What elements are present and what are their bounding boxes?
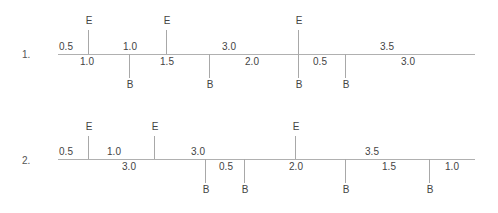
e-tick (88, 30, 89, 54)
b-tick (129, 54, 130, 78)
interval-above: 1.0 (123, 41, 137, 52)
b-marker: B (127, 79, 134, 90)
b-marker: B (207, 79, 214, 90)
interval-above: 1.0 (107, 146, 121, 157)
timeline-axis (58, 159, 475, 160)
b-tick (209, 54, 210, 78)
interval-above: 3.0 (222, 41, 236, 52)
b-marker: B (343, 79, 350, 90)
b-tick (244, 159, 245, 183)
interval-above: 3.5 (365, 146, 379, 157)
interval-above: 3.5 (380, 41, 394, 52)
interval-below: 0.5 (313, 56, 327, 67)
b-tick (345, 159, 346, 183)
row-label: 1. (22, 49, 30, 60)
e-marker: E (296, 15, 303, 26)
interval-below: 1.5 (160, 56, 174, 67)
b-tick (205, 159, 206, 183)
e-tick (298, 30, 299, 54)
timeline-axis (58, 54, 475, 55)
b-marker: B (427, 184, 434, 195)
e-marker: E (293, 121, 300, 132)
interval-above: 3.0 (191, 146, 205, 157)
b-marker: B (343, 184, 350, 195)
e-tick (88, 136, 89, 159)
interval-below: 1.0 (80, 56, 94, 67)
interval-below: 1.5 (382, 161, 396, 172)
b-marker: B (203, 184, 210, 195)
row-label: 2. (22, 155, 30, 166)
e-marker: E (164, 15, 171, 26)
e-marker: E (86, 121, 93, 132)
interval-above: 0.5 (59, 41, 73, 52)
b-marker: B (296, 79, 303, 90)
e-marker: E (152, 121, 159, 132)
e-tick (295, 136, 296, 159)
interval-above: 0.5 (59, 146, 73, 157)
b-tick (429, 159, 430, 183)
e-tick (166, 30, 167, 54)
interval-below: 1.0 (445, 161, 459, 172)
e-tick (154, 136, 155, 159)
interval-below: 3.0 (122, 161, 136, 172)
e-marker: E (86, 15, 93, 26)
interval-below: 2.0 (289, 161, 303, 172)
b-tick (298, 54, 299, 78)
interval-below: 2.0 (245, 56, 259, 67)
b-tick (345, 54, 346, 78)
interval-below: 3.0 (401, 56, 415, 67)
b-marker: B (242, 184, 249, 195)
interval-below: 0.5 (219, 161, 233, 172)
